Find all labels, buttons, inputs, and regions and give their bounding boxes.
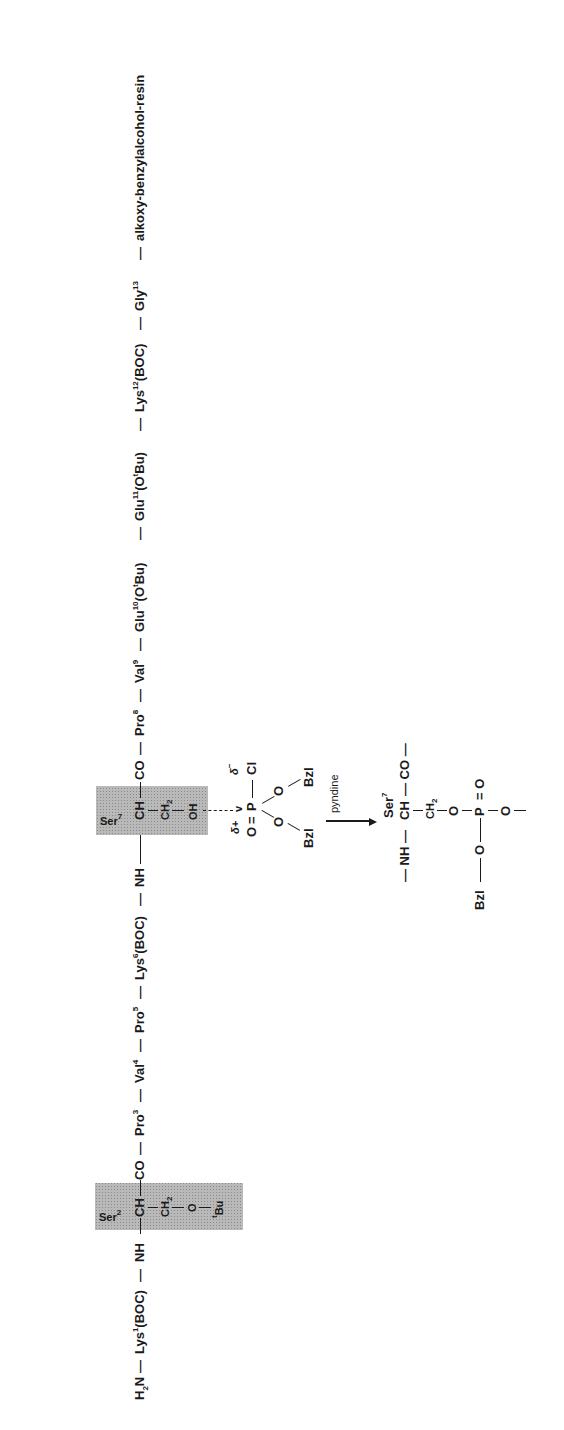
reaction-scheme: H2N — Lys1(BOC) — NH Ser2 CH CH2 O tBu C…	[0, 0, 564, 1430]
ser7-ch2: CH2	[158, 800, 172, 820]
ester-oxygen-1: O	[272, 817, 286, 827]
attack-dashed-line	[203, 810, 233, 811]
residue-pro8: Pro8	[133, 710, 147, 736]
ser2-alpha-ch: CH	[133, 1198, 147, 1217]
bond: —	[133, 1142, 147, 1155]
pyridine-label: pyndine	[327, 774, 341, 813]
product-ser7-label: Ser7	[382, 793, 396, 818]
bond: —	[133, 418, 147, 431]
phosphoryl-oxygen: O	[245, 827, 259, 837]
ser2-oxygen: O	[185, 1203, 199, 1212]
product-ester-oxygen: O	[447, 806, 461, 816]
bond	[252, 780, 253, 798]
bond	[480, 858, 481, 882]
bond	[140, 1218, 141, 1234]
bond	[148, 1207, 158, 1208]
residue-val4: Val4	[133, 1060, 147, 1083]
benzyl-group-1: Bzl	[302, 829, 316, 849]
benzyl-group-2: Bzl	[302, 768, 316, 788]
bond	[172, 1207, 184, 1208]
double-bond: =	[245, 816, 259, 824]
residue-glu11: Glu11(OtBu)	[133, 452, 147, 521]
bond: —	[133, 1089, 147, 1102]
product-phosphate-oxygen: O	[499, 806, 513, 816]
bond	[140, 782, 141, 798]
bond: —	[133, 893, 147, 906]
delta-plus-label: δ+	[228, 821, 242, 834]
amide-nh-2: NH	[133, 868, 147, 887]
bond	[262, 796, 275, 804]
carbonyl-co-2: CO	[133, 761, 147, 781]
bond: —	[133, 986, 147, 999]
ser2-label: Ser2	[99, 1210, 121, 1224]
product-nh: — NH —	[398, 830, 412, 882]
bond: —	[133, 742, 147, 755]
bond	[140, 835, 141, 864]
bond: —	[133, 1360, 147, 1373]
product-alpha-ch: CH	[398, 801, 412, 820]
carbonyl-co-1: CO	[133, 1161, 147, 1181]
residue-glu10: Glu10(OtBu)	[133, 563, 147, 632]
phosphorus-atom: P	[245, 802, 259, 811]
product-benzyl-group: Bzl	[473, 891, 487, 911]
chlorine-atom: Cl	[245, 762, 259, 775]
arrow-down-icon	[326, 821, 370, 823]
bond	[462, 810, 472, 811]
bond	[199, 1207, 211, 1208]
ser2-tbu: tBu	[212, 1201, 226, 1218]
bond: —	[133, 638, 147, 651]
bond: —	[133, 1269, 147, 1282]
ester-oxygen-2: O	[272, 786, 286, 796]
residue-pro5: Pro5	[133, 1007, 147, 1033]
amide-nh-1: NH	[133, 1243, 147, 1262]
product-ch2: CH2	[423, 799, 437, 819]
bond	[172, 810, 184, 811]
product-co: — CO —	[398, 743, 412, 796]
residue-lys1: Lys1(BOC)	[133, 1290, 147, 1354]
bond: —	[133, 247, 147, 260]
residue-gly13: Gly13	[133, 281, 147, 311]
ser7-alpha-ch: CH	[133, 801, 147, 820]
product-phosphorus: P	[473, 807, 487, 816]
bond	[480, 818, 481, 842]
bond	[287, 823, 300, 831]
h2n-terminus: H2N	[133, 1377, 147, 1400]
residue-lys6: Lys6(BOC)	[133, 916, 147, 980]
product-p-double-o: = O	[473, 779, 487, 800]
bond	[148, 810, 158, 811]
delta-minus-label: δ−	[227, 764, 241, 775]
residue-lys12: Lys12(BOC)	[133, 344, 147, 412]
bond	[413, 810, 423, 811]
ser7-label: Ser7	[100, 814, 122, 828]
bond: —	[133, 527, 147, 540]
resin-label: alkoxy-benzylalcohol-resin	[133, 75, 147, 241]
bond	[288, 779, 301, 787]
bond: —	[133, 1039, 147, 1052]
bond: —	[133, 689, 147, 702]
bond	[140, 1180, 141, 1196]
bond: —	[133, 317, 147, 330]
bond	[514, 810, 526, 811]
ser2-ch2: CH2	[158, 1197, 172, 1217]
residue-pro3: Pro3	[133, 1110, 147, 1136]
bond	[488, 810, 498, 811]
product-benzyl-oxygen: O	[473, 845, 487, 855]
ser7-hydroxyl: OH	[186, 804, 200, 821]
residue-val9: Val9	[133, 660, 147, 683]
attack-arrowhead: v	[231, 806, 245, 812]
